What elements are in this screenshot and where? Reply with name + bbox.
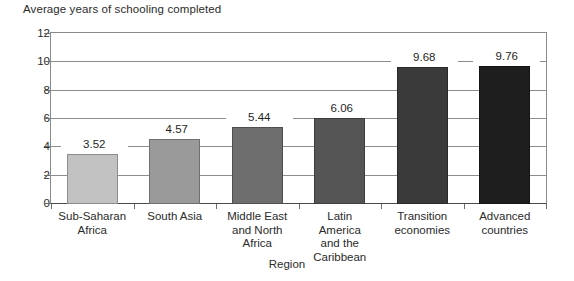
category-label: Sub-SaharanAfrica: [51, 210, 134, 237]
bar[interactable]: [479, 66, 530, 204]
x-axis-tick: [134, 204, 135, 209]
x-axis: Sub-SaharanAfricaSouth AsiaMiddle Eastan…: [50, 204, 547, 262]
category-label-line: countries: [464, 224, 547, 238]
bar-value-label: 4.57: [143, 123, 210, 135]
category-label: Transitioneconomies: [381, 210, 464, 237]
x-axis-tick: [51, 204, 52, 209]
category-label-line: and North: [216, 224, 299, 238]
x-axis-tick: [381, 204, 382, 209]
category-label-line: Sub-Saharan: [51, 210, 134, 224]
category-label-line: Transition: [381, 210, 464, 224]
category-label-line: economies: [381, 224, 464, 238]
bar[interactable]: [67, 154, 118, 204]
category-label-line: Advanced: [464, 210, 547, 224]
bar-value-label: 5.44: [226, 111, 293, 123]
category-label-line: Africa: [216, 237, 299, 251]
x-axis-tick: [546, 204, 547, 209]
category-label: Middle Eastand NorthAfrica: [216, 210, 299, 251]
category-label-line: Latin: [299, 210, 382, 224]
y-axis: 024681012: [0, 32, 50, 205]
x-axis-tick: [216, 204, 217, 209]
category-label: South Asia: [134, 210, 217, 224]
bar-value-label: 9.76: [473, 50, 540, 62]
bar-value-label: 9.68: [391, 51, 458, 63]
category-label: Advancedcountries: [464, 210, 547, 237]
x-axis-tick: [464, 204, 465, 209]
bar[interactable]: [397, 67, 448, 204]
category-label-line: South Asia: [134, 210, 217, 224]
bar-value-label: 6.06: [308, 102, 375, 114]
category-label-line: and the: [299, 237, 382, 251]
category-label: LatinAmericaand theCaribbean: [299, 210, 382, 264]
bar[interactable]: [149, 139, 200, 204]
category-label-line: America: [299, 224, 382, 238]
bars-layer: 3.524.575.446.069.689.76: [51, 33, 546, 204]
bar[interactable]: [232, 127, 283, 204]
x-axis-tick: [299, 204, 300, 209]
y-axis-title: Average years of schooling completed: [23, 3, 221, 15]
category-label-line: Middle East: [216, 210, 299, 224]
bar-value-label: 3.52: [61, 138, 128, 150]
bar-chart: Average years of schooling completed 024…: [0, 0, 574, 281]
bar[interactable]: [314, 118, 365, 204]
category-label-line: Africa: [51, 224, 134, 238]
x-axis-title: Region: [0, 258, 574, 270]
